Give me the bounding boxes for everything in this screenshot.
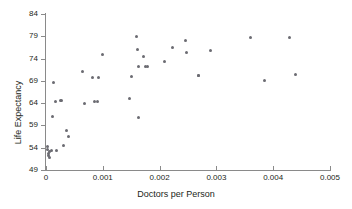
data-point bbox=[142, 55, 145, 58]
data-point bbox=[209, 49, 212, 52]
data-point bbox=[52, 81, 55, 84]
data-point bbox=[97, 76, 100, 79]
data-point bbox=[62, 144, 65, 147]
x-tick-label: 0.005 bbox=[310, 174, 350, 182]
plot-area bbox=[46, 14, 330, 170]
data-point bbox=[249, 36, 252, 39]
data-point bbox=[185, 51, 188, 54]
data-point bbox=[48, 156, 51, 159]
x-tick-label: 0.004 bbox=[253, 174, 293, 182]
data-point bbox=[294, 73, 297, 76]
data-point bbox=[83, 102, 86, 105]
x-axis-line bbox=[45, 170, 331, 171]
data-point bbox=[60, 99, 63, 102]
data-point bbox=[163, 60, 166, 63]
data-point bbox=[171, 46, 174, 49]
data-point bbox=[67, 135, 70, 138]
data-point bbox=[135, 35, 138, 38]
x-tick-label: 0.001 bbox=[83, 174, 123, 182]
data-point bbox=[263, 79, 266, 82]
x-tick-label: 0.002 bbox=[140, 174, 180, 182]
data-point bbox=[96, 100, 99, 103]
data-point bbox=[146, 65, 149, 68]
data-point bbox=[184, 39, 187, 42]
y-tick-label-text: 84 bbox=[16, 10, 38, 18]
data-point bbox=[81, 70, 84, 73]
x-axis-title-text: Doctors per Person bbox=[0, 190, 352, 199]
data-point bbox=[197, 74, 200, 77]
y-tick-label-text: 79 bbox=[16, 32, 38, 40]
data-point bbox=[91, 76, 94, 79]
x-tick-label: 0.003 bbox=[196, 174, 236, 182]
data-point bbox=[130, 75, 133, 78]
y-axis-title: Life Expectancy bbox=[6, 30, 18, 140]
data-point bbox=[128, 97, 131, 100]
scatter-chart: 4954596469747984 00.0010.0020.0030.0040.… bbox=[0, 0, 352, 209]
data-point bbox=[137, 65, 140, 68]
data-point bbox=[137, 116, 140, 119]
data-point bbox=[65, 129, 68, 132]
data-point bbox=[288, 36, 291, 39]
data-point bbox=[136, 48, 139, 51]
data-point bbox=[50, 149, 53, 152]
x-tick bbox=[330, 166, 331, 171]
y-axis-title-text: Life Expectancy bbox=[14, 48, 23, 178]
x-tick-label: 0 bbox=[26, 174, 66, 182]
data-point bbox=[54, 100, 57, 103]
data-point bbox=[51, 115, 54, 118]
y-tick-label: 84 bbox=[14, 10, 38, 18]
data-point bbox=[55, 149, 58, 152]
data-point bbox=[101, 53, 104, 56]
